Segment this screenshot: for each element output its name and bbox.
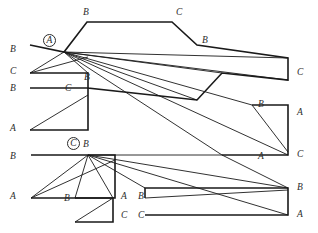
cut-diag-2 — [30, 95, 88, 130]
vertex-label-v-left-a-2: A — [10, 192, 16, 202]
cut-c-6 — [88, 155, 288, 215]
vertex-label-v-bot-b-2: B — [138, 192, 144, 202]
cut-diag-4 — [75, 198, 113, 222]
vertex-label-v-top-b: B — [83, 8, 89, 18]
cut-c-2 — [75, 155, 88, 198]
cut-a-5 — [64, 52, 288, 80]
vertex-label-v-left-b-3: B — [10, 152, 16, 162]
hub-label-hub-c: C — [67, 137, 80, 150]
cut-a-1 — [30, 52, 64, 73]
shape-mid-left — [31, 155, 115, 198]
vertex-label-v-right-b-1: B — [258, 100, 264, 110]
vertex-label-v-left-c-1: C — [10, 67, 16, 77]
vertex-label-v-top-c: C — [176, 8, 182, 18]
hub-label-hub-a: A — [43, 34, 56, 47]
cut-diag-7 — [222, 155, 288, 188]
vertex-label-v-mid-b-1: B — [84, 73, 90, 83]
vertex-label-v-bot-b-1: B — [64, 194, 70, 204]
vertex-label-v-mid-c-1: C — [65, 84, 71, 94]
vertex-label-v-left-a-1: A — [10, 124, 16, 134]
vertex-label-v-mid-a-1: A — [258, 152, 264, 162]
vertex-label-v-bot-c-1: C — [121, 211, 127, 221]
cut-diag-5 — [252, 105, 288, 152]
vertex-label-v-left-b-2: B — [10, 84, 16, 94]
shape-right-upper — [222, 105, 288, 155]
vertex-label-v-right-c-2: C — [297, 150, 303, 160]
vertex-label-v-right-b-2: B — [297, 183, 303, 193]
shape-bottom-right — [145, 188, 288, 215]
vertex-label-v-right-a-1: A — [297, 108, 303, 118]
cut-diag-6 — [145, 190, 288, 198]
shape-upper-band — [30, 88, 88, 130]
vertex-label-v-right-c-1: C — [297, 68, 303, 78]
vertex-label-v-bot-a-1: A — [121, 192, 127, 202]
vertex-label-v-right-a-2: A — [297, 210, 303, 220]
cut-a-9 — [64, 52, 288, 155]
vertex-label-v-upper-right-b: B — [202, 36, 208, 46]
vertex-label-v-left-b-1: B — [10, 45, 16, 55]
vertex-label-v-hub-c-b: B — [83, 140, 89, 150]
vertex-label-v-bot-c-2: C — [138, 211, 144, 221]
cut-a-7 — [64, 52, 252, 105]
geometric-figure: BCBBCCBBCBAABBACABABCCBAAC — [0, 0, 318, 233]
